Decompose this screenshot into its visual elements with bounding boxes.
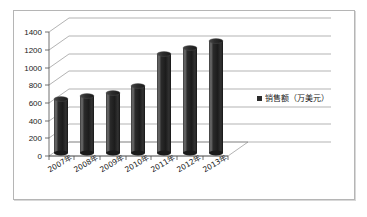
legend-square-marker-icon bbox=[257, 96, 262, 101]
y-tick-label-0: 0 bbox=[38, 152, 43, 161]
chart-legend[interactable]: 销售额（万美元） bbox=[257, 93, 329, 103]
bar-2012[interactable] bbox=[183, 46, 197, 156]
gridline-1400 bbox=[49, 18, 331, 32]
bar-2008[interactable] bbox=[80, 94, 94, 156]
y-tick-marks bbox=[45, 32, 49, 156]
bar-2007[interactable] bbox=[54, 97, 68, 156]
y-tick-label-1400: 1400 bbox=[24, 28, 42, 37]
chart-container: 1400 1200 1000 800 600 400 200 0 bbox=[13, 10, 355, 200]
bar-2013[interactable] bbox=[209, 39, 223, 156]
bar-2010[interactable] bbox=[131, 84, 145, 156]
y-tick-label-200: 200 bbox=[29, 134, 43, 143]
bar-chart-svg: 1400 1200 1000 800 600 400 200 0 bbox=[14, 11, 354, 199]
chart-plot-area: 1400 1200 1000 800 600 400 200 0 bbox=[14, 11, 354, 199]
bar-2009[interactable] bbox=[106, 91, 120, 156]
bars-group bbox=[54, 39, 223, 156]
y-tick-label-400: 400 bbox=[29, 117, 43, 126]
legend-label-sales: 销售额（万美元） bbox=[265, 93, 329, 103]
bar-2011[interactable] bbox=[157, 52, 171, 156]
y-tick-label-1000: 1000 bbox=[24, 64, 42, 73]
y-tick-label-1200: 1200 bbox=[24, 46, 42, 55]
y-tick-label-600: 600 bbox=[29, 99, 43, 108]
y-tick-label-800: 800 bbox=[29, 81, 43, 90]
